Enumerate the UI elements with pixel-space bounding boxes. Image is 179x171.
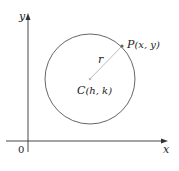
circle-diagram: y x 0 r C(h, k) P(x, y): [0, 0, 179, 171]
center-label-args: (h, k): [85, 85, 112, 96]
point-label-args: (x, y): [134, 39, 160, 50]
x-axis-label: x: [163, 143, 170, 156]
radius-line: [90, 46, 122, 79]
origin-label: 0: [18, 144, 24, 155]
y-axis-label: y: [18, 10, 26, 23]
center-point: [89, 78, 92, 81]
y-axis-arrow-icon: [26, 13, 31, 20]
center-label: C(h, k): [77, 84, 112, 97]
radius-label: r: [98, 53, 104, 66]
point-label: P(x, y): [126, 38, 160, 51]
point-p: [120, 44, 123, 47]
